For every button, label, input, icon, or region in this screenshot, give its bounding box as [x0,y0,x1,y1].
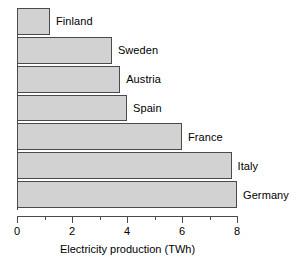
bar [17,37,112,64]
bar [17,123,182,150]
bar-label: Spain [133,102,162,114]
bar-row: Italy [17,152,237,179]
bar-chart: FinlandSwedenAustriaSpainFranceItalyGerm… [0,0,302,268]
bar-label: Sweden [118,44,158,56]
bar-label: Germany [243,189,289,201]
x-axis-major-tick [182,217,183,223]
x-axis-minor-tick [155,217,156,220]
plot-area: FinlandSwedenAustriaSpainFranceItalyGerm… [17,8,237,210]
bar-row: Germany [17,181,237,208]
bar [17,95,127,122]
bar-row: Finland [17,8,237,35]
x-axis-title: Electricity production (TWh) [17,243,238,255]
bar-row: Austria [17,66,237,93]
x-axis-minor-tick [210,217,211,220]
x-axis-tick-label: 6 [179,225,185,237]
bar-label: Italy [238,160,259,172]
x-axis-tick-label: 8 [234,225,240,237]
x-axis-major-tick [127,217,128,223]
bar-label: France [188,131,223,143]
bar-row: Sweden [17,37,237,64]
bar-label: Finland [56,15,93,27]
bar-row: Spain [17,95,237,122]
x-axis-major-tick [17,217,18,223]
x-axis-tick-label: 2 [69,225,75,237]
bar [17,152,232,179]
bar-row: France [17,123,237,150]
bar [17,8,50,35]
bar [17,181,237,208]
x-axis-minor-tick [45,217,46,220]
bar-label: Austria [126,73,161,85]
x-axis-major-tick [237,217,238,223]
y-axis-line [17,8,18,210]
x-axis-major-tick [72,217,73,223]
x-axis-minor-tick [100,217,101,220]
x-axis-tick-label: 4 [124,225,130,237]
bar [17,66,120,93]
x-axis-tick-label: 0 [14,225,20,237]
